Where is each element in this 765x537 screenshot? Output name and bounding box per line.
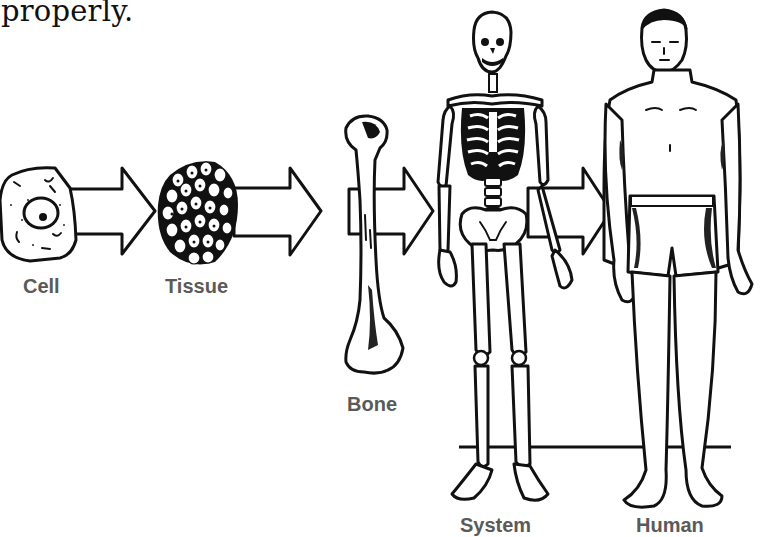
tissue-illustration (158, 161, 238, 264)
arrow-cell-to-tissue (70, 168, 155, 254)
label-cell: Cell (23, 275, 60, 298)
label-system: System (460, 514, 531, 537)
human-illustration (604, 10, 752, 507)
diagram-canvas (0, 0, 765, 537)
label-bone: Bone (347, 393, 397, 416)
arrow-tissue-to-bone (234, 168, 321, 255)
cell-illustration (0, 168, 76, 261)
skeleton-illustration (438, 12, 572, 500)
label-human: Human (636, 514, 704, 537)
bone-illustration (346, 116, 403, 373)
label-tissue: Tissue (165, 275, 228, 298)
